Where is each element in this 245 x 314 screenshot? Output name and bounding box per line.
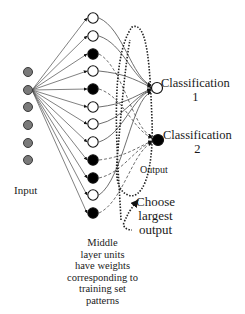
middle-node-hollow	[88, 13, 98, 23]
input-middle-edge	[32, 90, 87, 213]
middle-node-hollow	[88, 137, 98, 147]
rbf-network-diagram: Input Output Classification 1 Classifica…	[0, 0, 245, 314]
middle-node-hollow	[88, 31, 98, 41]
input-middle-edge	[32, 71, 87, 90]
classification-1-label: Classification 1	[161, 77, 230, 103]
middle-node-filled	[88, 155, 98, 165]
input-node	[24, 156, 33, 165]
input-middle-edge	[32, 54, 87, 90]
output-label: Output	[140, 165, 168, 175]
input-node	[24, 86, 33, 95]
middle-node-filled	[88, 208, 98, 218]
middle-node-hollow	[88, 119, 98, 129]
input-middle-edge	[32, 90, 87, 107]
input-node	[24, 68, 33, 77]
middle-node-hollow	[88, 102, 98, 112]
middle-output-edge	[99, 90, 151, 142]
middle-layer	[88, 13, 98, 218]
middle-to-output-connections	[99, 18, 152, 213]
middle-node-filled	[88, 49, 98, 59]
input-middle-edge	[32, 89, 87, 90]
input-middle-edge	[32, 90, 87, 195]
input-to-middle-connections	[32, 18, 87, 213]
input-middle-edge	[32, 90, 87, 124]
middle-output-edge-dashed	[99, 89, 152, 138]
middle-node-filled	[88, 173, 98, 183]
input-node	[24, 103, 33, 112]
middle-layer-caption: Middle layer units have weights correspo…	[65, 237, 140, 306]
input-middle-edge	[32, 90, 87, 160]
input-node	[24, 121, 33, 130]
input-node	[24, 139, 33, 148]
choose-largest-output-label: Choose largest output	[136, 195, 175, 237]
input-label: Input	[14, 185, 37, 196]
classification-2-label: Classification 2	[163, 129, 232, 155]
middle-output-edge	[99, 92, 151, 195]
input-middle-edge	[32, 36, 87, 90]
middle-node-hollow	[88, 190, 98, 200]
input-middle-edge	[32, 18, 87, 90]
middle-node-filled	[88, 84, 98, 94]
output-node-filled	[153, 135, 164, 146]
middle-node-hollow	[88, 66, 98, 76]
input-layer	[24, 68, 33, 165]
